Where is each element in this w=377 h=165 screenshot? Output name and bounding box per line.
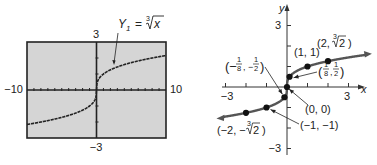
func-label-radicand: x <box>153 17 161 31</box>
calc-xmax-label: 10 <box>170 83 182 95</box>
x-min-tick-label: −3 <box>221 90 234 102</box>
y-min-tick-label: −3 <box>268 142 281 154</box>
svg-text:(−: (− <box>225 59 237 74</box>
point-label-0-0: (0, 0) <box>305 103 331 115</box>
svg-text:2: 2 <box>254 64 258 73</box>
cube-root-graph-panel: y x 3 −3 −3 3 (1, 1) (2, 3 2 ) ( 1 8 , 1… <box>216 2 371 155</box>
svg-text:2: 2 <box>253 124 259 136</box>
data-point <box>243 110 249 116</box>
svg-text:(−2, −: (−2, − <box>217 124 246 136</box>
data-point <box>304 63 310 69</box>
svg-text:8: 8 <box>324 69 328 78</box>
svg-text:, −: , − <box>243 62 253 72</box>
calc-ymax-label: 3 <box>93 28 99 40</box>
svg-text:(: ( <box>318 64 323 79</box>
svg-text:1: 1 <box>254 55 258 64</box>
svg-text:(2,: (2, <box>317 37 330 49</box>
point-label-neg2-neg-cbrt2: (−2, − 3 2 ) <box>217 120 266 136</box>
x-max-tick-label: 3 <box>344 90 350 102</box>
svg-text:): ) <box>262 124 266 136</box>
func-label-root-index: 3 <box>146 15 150 22</box>
func-label-equals: = <box>135 17 142 31</box>
svg-text:8: 8 <box>237 64 241 73</box>
svg-text:3: 3 <box>333 33 337 40</box>
svg-text:): ) <box>348 37 352 49</box>
svg-text:1: 1 <box>324 60 328 69</box>
svg-text:2: 2 <box>334 69 338 78</box>
cube-root-figure: 3 −3 −10 10 Y1 = 3 x y x 3 −3 −3 3 ( <box>0 0 377 165</box>
svg-text:Y1: Y1 <box>118 17 130 33</box>
y-axis-label: y <box>278 2 286 14</box>
func-label-subscript: 1 <box>126 24 130 33</box>
arrowhead-icon <box>271 110 276 114</box>
data-point <box>286 74 292 80</box>
point-label-neg-1-8-neg-1-2: (− 1 8 , − 1 2 ) <box>225 55 264 74</box>
svg-text:3: 3 <box>247 120 251 127</box>
x-axis-label: x <box>360 83 367 95</box>
calc-ymin-label: −3 <box>90 141 103 153</box>
svg-text:2: 2 <box>339 37 345 49</box>
curve-arrow-left-icon <box>216 115 224 121</box>
point-label-2-cbrt2: (2, 3 2 ) <box>317 33 352 49</box>
point-label-neg1-neg1: (−1, −1) <box>300 119 339 131</box>
calculator-graph-panel: 3 −3 −10 10 Y1 = 3 x <box>4 15 182 153</box>
svg-text:1: 1 <box>237 55 241 64</box>
svg-text:): ) <box>340 64 344 79</box>
y-max-tick-label: 3 <box>275 19 281 31</box>
data-point <box>263 104 269 110</box>
point-label-1-1: (1, 1) <box>294 46 320 58</box>
calc-xmin-label: −10 <box>4 83 23 95</box>
svg-text:1: 1 <box>334 60 338 69</box>
y-axis-arrow-icon <box>285 4 290 11</box>
svg-text:,: , <box>330 67 333 77</box>
arrowhead-icon <box>278 89 282 94</box>
curve-arrow-right-icon <box>364 51 372 58</box>
svg-text:): ) <box>260 59 264 74</box>
data-point <box>281 94 287 100</box>
